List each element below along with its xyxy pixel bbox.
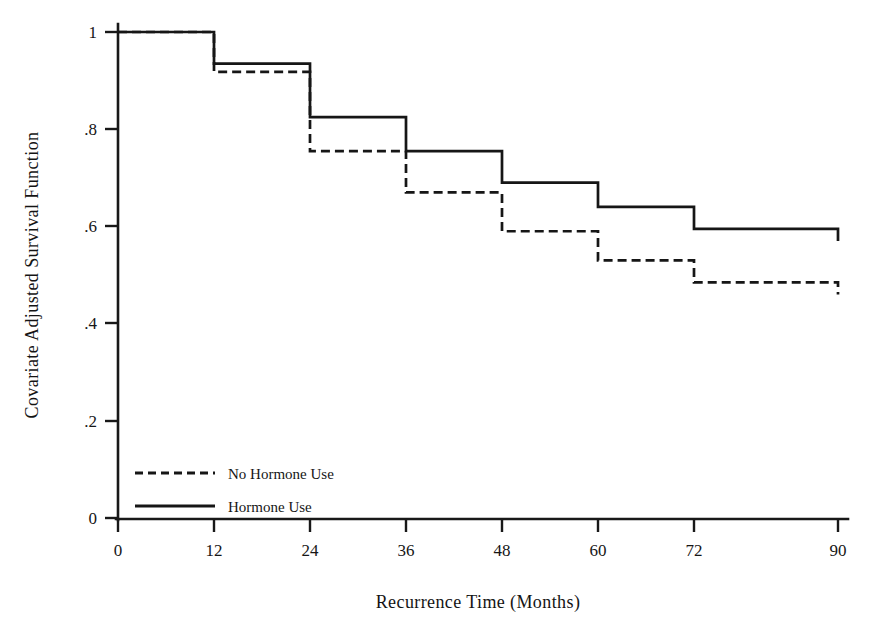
curve-hormone-use bbox=[118, 32, 838, 241]
y-axis-ticks: 1 .8 .6 .4 .2 0 bbox=[84, 23, 118, 528]
x-tick-label-90: 90 bbox=[830, 541, 847, 560]
survival-curve-figure: Covariate Adjusted Survival Function Rec… bbox=[0, 0, 883, 633]
x-tick-label-48: 48 bbox=[494, 541, 511, 560]
y-tick-label-04: .4 bbox=[84, 314, 97, 333]
y-tick-label-02: .2 bbox=[84, 412, 97, 431]
x-tick-label-36: 36 bbox=[398, 541, 415, 560]
y-tick-label-06: .6 bbox=[84, 217, 97, 236]
x-tick-label-24: 24 bbox=[302, 541, 320, 560]
x-axis-ticks: 0 12 24 36 48 60 72 90 bbox=[114, 519, 847, 560]
x-tick-label-12: 12 bbox=[206, 541, 223, 560]
y-tick-label-1: 1 bbox=[89, 23, 98, 42]
y-tick-label-0: 0 bbox=[89, 509, 98, 528]
curve-no-hormone-use bbox=[118, 32, 838, 294]
legend-label-no-hormone-use: No Hormone Use bbox=[228, 466, 334, 482]
y-axis-title: Covariate Adjusted Survival Function bbox=[22, 132, 42, 419]
x-axis-title: Recurrence Time (Months) bbox=[376, 592, 581, 613]
legend-label-hormone-use: Hormone Use bbox=[228, 499, 312, 515]
y-tick-label-08: .8 bbox=[84, 120, 97, 139]
survival-plot-canvas: Covariate Adjusted Survival Function Rec… bbox=[0, 0, 883, 633]
chart-legend: No Hormone Use Hormone Use bbox=[135, 466, 334, 515]
x-tick-label-72: 72 bbox=[686, 541, 703, 560]
x-tick-label-60: 60 bbox=[590, 541, 607, 560]
x-tick-label-0: 0 bbox=[114, 541, 123, 560]
